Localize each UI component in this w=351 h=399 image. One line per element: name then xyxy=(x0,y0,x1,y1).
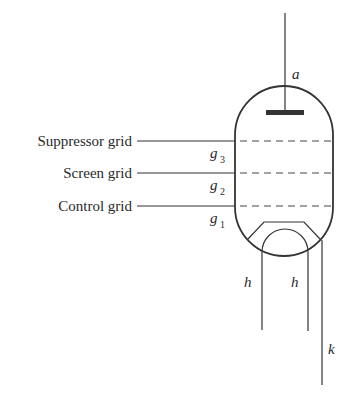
cathode-label: k xyxy=(328,341,335,357)
control-grid-label: Control grid xyxy=(58,198,132,214)
pentode-diagram: a Suppressor grid Screen grid Control gr… xyxy=(0,0,351,399)
g2-symbol: g xyxy=(210,177,218,193)
cathode xyxy=(248,222,320,239)
suppressor-grid-label: Suppressor grid xyxy=(37,133,132,149)
g3-symbol: g xyxy=(210,145,218,161)
g1-symbol: g xyxy=(210,210,218,226)
g3-subscript: 3 xyxy=(220,154,225,165)
anode-label: a xyxy=(292,66,300,82)
g1-subscript: 1 xyxy=(220,219,225,230)
anode-plate xyxy=(266,110,304,115)
heater-label-right: h xyxy=(291,274,299,290)
g2-subscript: 2 xyxy=(220,186,225,197)
screen-grid-label: Screen grid xyxy=(63,165,132,181)
heater xyxy=(262,229,308,331)
heater-label-left: h xyxy=(244,274,252,290)
